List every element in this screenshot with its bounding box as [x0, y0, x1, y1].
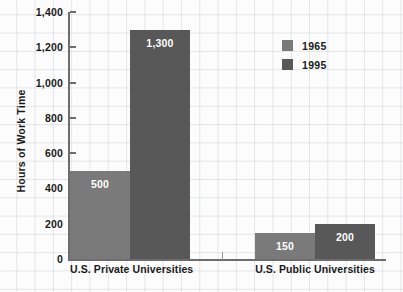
y-tick-mark: [70, 117, 76, 119]
y-tick-mark: [70, 46, 76, 48]
bar-1995-group1: 200: [315, 224, 375, 259]
y-tick-label: 600: [0, 147, 63, 159]
bar-value-label: 500: [70, 178, 130, 190]
y-tick-mark: [70, 82, 76, 84]
y-tick-label: 400: [0, 182, 63, 194]
group-divider-tick: [222, 252, 223, 260]
y-tick-label: 1,200: [0, 41, 63, 53]
bar-1995-group0: 1,300: [130, 30, 190, 259]
y-tick-label-wrap: 600: [0, 147, 63, 159]
group-label-1: U.S. Public Universities: [255, 263, 375, 275]
y-tick-label-wrap: 800: [0, 112, 63, 124]
group-label-0: U.S. Private Universities: [70, 263, 190, 275]
legend-item-1: 1995: [282, 57, 327, 72]
bar-value-label: 200: [315, 231, 375, 243]
y-tick-label-wrap: 400: [0, 182, 63, 194]
bar-chart: Hours of Work Time 1,4001,2001,000800600…: [0, 0, 403, 292]
y-tick-label: 200: [0, 218, 63, 230]
y-tick-label: 1,000: [0, 77, 63, 89]
y-tick-mark: [70, 152, 76, 154]
y-tick-label-wrap: 200: [0, 218, 63, 230]
bar-1965-group0: 500: [70, 171, 130, 259]
legend-label-1965: 1965: [302, 40, 327, 52]
chart-legend: 1965 1995: [282, 38, 327, 76]
y-tick-label-wrap: 1,400: [0, 6, 63, 18]
bar-value-label: 1,300: [130, 37, 190, 49]
y-tick-label: 1,400: [0, 6, 63, 18]
y-tick-label-wrap: 0: [0, 253, 63, 265]
y-tick-label-wrap: 1,200: [0, 41, 63, 53]
legend-swatch-1995: [282, 59, 293, 70]
legend-item-0: 1965: [282, 38, 327, 53]
bar-1965-group1: 150: [255, 233, 315, 259]
y-tick-mark: [70, 11, 76, 13]
y-tick-label: 800: [0, 112, 63, 124]
legend-label-1995: 1995: [302, 59, 327, 71]
x-axis-line: [68, 259, 386, 261]
y-tick-label-wrap: 1,000: [0, 77, 63, 89]
legend-swatch-1965: [282, 40, 293, 51]
y-tick-label: 0: [0, 253, 63, 265]
bar-value-label: 150: [255, 240, 315, 252]
